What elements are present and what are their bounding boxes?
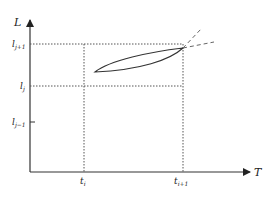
y-tick-label-l-j-plus-1: lj+1: [12, 39, 26, 51]
y-tick-label-l-j-minus-1: lj−1: [12, 117, 26, 129]
trajectory-envelope: [95, 48, 183, 72]
x-tick-label-t-i-plus-1: ti+1: [174, 176, 188, 187]
x-axis-label: T: [254, 166, 263, 179]
dashed-extension-lower: [183, 42, 214, 48]
y-tick-label-l-j: lj: [20, 81, 25, 93]
y-axis-label: L: [13, 16, 21, 29]
x-tick-label-t-i: ti: [80, 176, 86, 187]
diagram-canvas: L T lj+1 lj lj−1 ti ti+1: [0, 0, 274, 200]
